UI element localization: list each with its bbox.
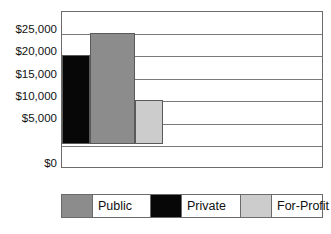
bar-public[interactable] (90, 33, 135, 144)
legend-swatch-public-icon (62, 195, 93, 217)
legend-label-for-profit: For-Profit (272, 195, 331, 217)
y-axis-label-0: $0 (0, 157, 57, 169)
bar-private[interactable] (62, 55, 90, 144)
y-axis-label-10000: $10,000 (0, 90, 57, 102)
legend-swatch-private-icon (151, 195, 182, 217)
title-stub (150, 0, 190, 3)
legend-swatch-for-profit-icon (241, 195, 272, 217)
plot-area (61, 11, 323, 168)
legend-entry-public[interactable]: Public (62, 195, 151, 217)
legend-label-public: Public (93, 195, 151, 217)
legend-label-private: Private (182, 195, 241, 217)
y-axis: $25,000 $20,000 $15,000 $10,000 $5,000 $… (0, 11, 57, 168)
legend-entry-for-profit[interactable]: For-Profit (241, 195, 331, 217)
legend-entry-private[interactable]: Private (151, 195, 241, 217)
bar-chart: $25,000 $20,000 $15,000 $10,000 $5,000 $… (0, 0, 331, 234)
y-axis-label-20000: $20,000 (0, 45, 57, 57)
y-axis-label-25000: $25,000 (0, 23, 57, 35)
y-axis-label-5000: $5,000 (0, 112, 57, 124)
y-axis-label-15000: $15,000 (0, 68, 57, 80)
bar-for-profit[interactable] (135, 100, 163, 144)
bars-layer (62, 12, 322, 167)
legend: Public Private For-Profit (61, 194, 323, 218)
